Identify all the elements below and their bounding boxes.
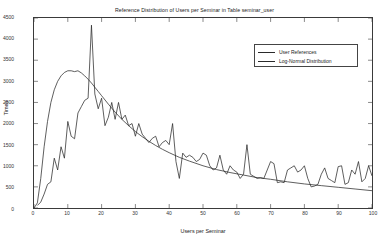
y-tick-label: 2000: [0, 121, 14, 126]
x-tick-label: 100: [358, 211, 388, 216]
legend-label: User References: [279, 50, 317, 55]
x-tick-label: 20: [86, 211, 116, 216]
x-tick-label: 40: [154, 211, 184, 216]
x-tick-label: 0: [18, 211, 48, 216]
chart-legend: User References Log-Normal Distribution: [254, 44, 358, 67]
x-tick-label: 70: [256, 211, 286, 216]
y-tick-label: 0: [0, 207, 14, 212]
legend-line-icon: [258, 52, 275, 53]
y-tick-label: 2500: [0, 100, 14, 105]
x-tick-label: 90: [324, 211, 354, 216]
x-axis-label: Users per Seminar: [33, 228, 373, 234]
x-tick-label: 80: [290, 211, 320, 216]
legend-item-user-references: User References: [258, 48, 357, 57]
chart-title: Reference Distribution of Users per Semi…: [0, 7, 389, 14]
legend-label: Log-Normal Distribution: [279, 59, 332, 64]
chart-figure: Reference Distribution of Users per Semi…: [0, 0, 389, 248]
y-tick-label: 1500: [0, 143, 14, 148]
y-tick-label: 4000: [0, 36, 14, 41]
x-tick-label: 60: [222, 211, 252, 216]
y-tick-label: 500: [0, 185, 14, 190]
y-tick-label: 3500: [0, 57, 14, 62]
x-tick-label: 30: [120, 211, 150, 216]
x-tick-label: 10: [52, 211, 82, 216]
legend-line-icon: [258, 61, 275, 62]
legend-item-log-normal-distribution: Log-Normal Distribution: [258, 57, 357, 66]
x-tick-label: 50: [188, 211, 218, 216]
series-log-normal-distribution: [34, 71, 372, 208]
y-tick-label: 4500: [0, 15, 14, 20]
y-tick-label: 3000: [0, 79, 14, 84]
y-tick-label: 1000: [0, 164, 14, 169]
